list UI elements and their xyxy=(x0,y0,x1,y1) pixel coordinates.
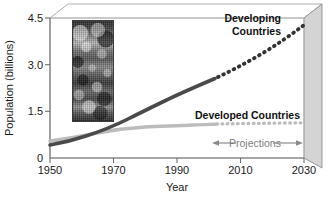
frame-top-panel xyxy=(50,4,322,18)
population-growth-figure: 4.5 3.0 1.5 0 1950 1970 1990 2010 2030 Y… xyxy=(0,0,335,197)
x-axis-title: Year xyxy=(166,181,189,193)
x-tick-label-1990: 1990 xyxy=(165,164,189,176)
x-tick-label-2030: 2030 xyxy=(292,164,316,176)
y-tick-label-4-5: 4.5 xyxy=(28,12,43,24)
y-tick-label-1-5: 1.5 xyxy=(28,105,43,117)
projections-annotation: Projections xyxy=(212,137,303,149)
y-tick-label-0: 0 xyxy=(37,152,43,164)
photo-grain-layer xyxy=(73,21,113,121)
projections-label: Projections xyxy=(229,137,281,149)
y-axis-title: Population (billions) xyxy=(3,40,15,136)
developed-dotted-line xyxy=(217,123,303,124)
x-tick-label-2010: 2010 xyxy=(228,164,252,176)
y-tick-label-3-0: 3.0 xyxy=(28,59,43,71)
developing-countries-label-line1: Developing xyxy=(224,12,281,24)
x-tick-label-1950: 1950 xyxy=(38,164,62,176)
developed-countries-label: Developed Countries xyxy=(195,109,300,121)
crowd-photo-inset xyxy=(72,20,114,122)
projections-arrow-left-head-icon xyxy=(212,140,219,146)
developing-countries-label-line2: Countries xyxy=(232,25,281,37)
frame-right-wall xyxy=(304,4,322,168)
chart-canvas: 4.5 3.0 1.5 0 1950 1970 1990 2010 2030 Y… xyxy=(0,0,335,197)
x-tick-label-1970: 1970 xyxy=(101,164,125,176)
projections-arrow-right-head-icon xyxy=(296,140,303,146)
